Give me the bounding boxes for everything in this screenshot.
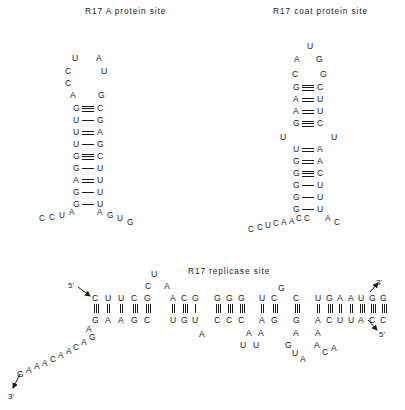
replicase-bond-16-b (341, 304, 342, 313)
replicase-bond-11-b (263, 304, 264, 313)
rna-structure-figure: R17 A protein site R17 coat protein site… (0, 0, 405, 410)
replicase-bottom-base-17: U (348, 316, 354, 325)
replicase-top-loop1-base-2: A (164, 282, 170, 291)
replicase-tail-base-7: C (73, 343, 79, 351)
replicase-bond-19-b (373, 304, 374, 313)
replicase-bottom-loop5-base-3: A (331, 344, 337, 353)
replicase-top-base-3: C (131, 294, 137, 303)
replicase-bottom-base-6: G (181, 316, 188, 325)
replicase-tail-base-1: A (26, 366, 32, 374)
replicase-bond-3-b (135, 304, 136, 313)
replicase-top-base-6: C (181, 294, 187, 303)
replicase-bond-9-b (230, 304, 231, 313)
replicase-top-base-16: A (337, 294, 343, 303)
replicase-bond-10-a (240, 304, 241, 313)
replicase-bottom-loop1-base-0: A (199, 330, 205, 339)
replicase-bond-0-b (96, 304, 97, 313)
replicase-bottom-base-2: A (118, 316, 124, 325)
replicase-bond-20-b (384, 304, 385, 313)
replicase-top-base-14: U (315, 294, 321, 303)
replicase-bottom-base-16: U (337, 316, 343, 325)
replicase-top-base-15: G (326, 294, 333, 303)
replicase-tail-base-2: A (34, 362, 40, 370)
replicase-top-base-8: G (214, 294, 221, 303)
replicase-top-base-0: C (92, 294, 98, 303)
replicase-bond-2-b (122, 304, 123, 313)
replicase-bond-20-c (386, 304, 387, 313)
replicase-bottom-loop4-base-3: A (300, 355, 306, 364)
replicase-bond-10-b (242, 304, 243, 313)
replicase-bottom-base-7: U (192, 316, 198, 325)
replicase-top-base-13: C (293, 294, 299, 303)
replicase-top-base-5: A (170, 294, 176, 303)
replicase-bond-10-c (244, 304, 245, 313)
replicase-bottom-base-14: A (315, 316, 321, 325)
replicase-top-base-18: U (358, 294, 364, 303)
replicase-bond-1-a (107, 304, 108, 313)
replicase-bottom-loop2-base-1: U (240, 341, 246, 350)
replicase-bond-12-a (273, 304, 274, 313)
replicase-top-base-19: G (369, 294, 376, 303)
replicase-bond-18-c (364, 304, 365, 313)
replicase-bond-12-c (277, 304, 278, 313)
replicase-bond-15-a (328, 304, 329, 313)
replicase-bond-6-c (187, 304, 188, 313)
replicase-bottom-loop4-base-2: U (292, 349, 298, 358)
replicase-bottom-base-13: G (293, 316, 300, 325)
replicase-bond-13-c (299, 304, 300, 313)
replicase-bond-14-a (317, 304, 318, 313)
replicase-bond-14-b (319, 304, 320, 313)
replicase-bottom-loop3-base-0: A (258, 329, 264, 338)
replicase-bond-8-c (220, 304, 221, 313)
replicase-top-loop1-base-0: C (145, 282, 151, 291)
replicase-top-loop2-base: G (278, 284, 285, 293)
replicase-bond-12-b (275, 304, 276, 313)
replicase-bottom-base-10: C (238, 316, 244, 325)
replicase-bottom-base-3: G (131, 316, 138, 325)
replicase-bond-18-b (362, 304, 363, 313)
replicase-bottom-base-8: C (214, 316, 220, 325)
replicase-tail-base-3: A (42, 359, 48, 367)
replicase-bottom-base-0: G (92, 316, 99, 325)
replicase-tail-base-0: G (17, 370, 24, 378)
replicase-top-base-20: G (380, 294, 387, 303)
replicase-bond-17-a (350, 304, 351, 313)
replicase-bottom-base-18: A (358, 316, 364, 325)
replicase-bond-16-a (339, 304, 340, 313)
replicase-bond-4-c (150, 304, 151, 313)
replicase-bottom-base-11: A (259, 316, 265, 325)
replicase-top-base-2: U (118, 294, 124, 303)
replicase-bottom-loop5-base-1: A (314, 341, 320, 350)
replicase-top-base-7: G (192, 294, 199, 303)
replicase-bottom-base-5: U (170, 316, 176, 325)
replicase-bottom-loop2-base-0: A (246, 329, 252, 338)
replicase-bottom-base-4: C (144, 316, 150, 325)
replicase-bond-4-b (148, 304, 149, 313)
replicase-bond-9-c (232, 304, 233, 313)
replicase-bottom-loop4-base-1: G (285, 341, 292, 350)
replicase-bond-4-a (146, 304, 147, 313)
replicase-bond-15-b (330, 304, 331, 313)
replicase-bond-3-a (133, 304, 134, 313)
replicase-bond-5-a (172, 304, 173, 313)
replicase-bond-1-b (109, 304, 110, 313)
replicase-bond-18-a (360, 304, 361, 313)
replicase-bottom-loop5-base-2: C (322, 348, 328, 357)
replicase-bond-6-b (185, 304, 186, 313)
replicase-tail-base-4: C (50, 355, 56, 363)
replicase-tail-base-10: A (86, 325, 92, 333)
replicase-tail-base-9: G (89, 333, 96, 341)
replicase-bond-0-a (94, 304, 95, 313)
replicase-bond-13-b (297, 304, 298, 313)
replicase-bond-5-b (174, 304, 175, 313)
replicase-bond-19-c (375, 304, 376, 313)
replicase-bond-2-a (120, 304, 121, 313)
replicase-bond-15-c (332, 304, 333, 313)
replicase-bottom-base-12: G (271, 316, 278, 325)
replicase-tail-base-8: A (81, 338, 87, 346)
replicase-top-base-9: G (226, 294, 233, 303)
replicase-bottom-loop3-base-1: U (253, 341, 259, 350)
replicase-bond-8-a (216, 304, 217, 313)
replicase-bond-8-b (218, 304, 219, 313)
replicase-tail-base-6: A (66, 347, 72, 355)
